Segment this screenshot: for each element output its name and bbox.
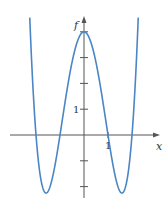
function-graph: f x 1 1 [0, 0, 167, 201]
x-axis [10, 133, 160, 138]
y-tick-label-1: 1 [73, 104, 79, 115]
y-axis-label: f [73, 19, 80, 32]
x-axis-label: x [156, 140, 163, 153]
x-tick-label-1: 1 [105, 140, 111, 151]
y-axis [82, 16, 87, 198]
